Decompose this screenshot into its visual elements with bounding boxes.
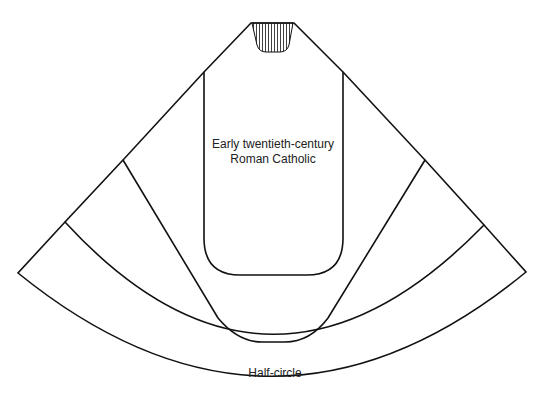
label-half-circle: Half-circle xyxy=(248,366,302,380)
neck-hatched-area xyxy=(252,23,293,52)
label-roman-catholic-line2: Roman Catholic xyxy=(230,152,315,166)
chasuble-diagram: Early twentieth-century Roman Catholic H… xyxy=(0,0,547,402)
label-roman-catholic-line1: Early twentieth-century xyxy=(212,137,334,151)
intermediate-form-1-outline xyxy=(123,72,425,342)
half-circle-outline xyxy=(18,222,526,376)
intermediate-form-2-outline xyxy=(65,160,484,334)
